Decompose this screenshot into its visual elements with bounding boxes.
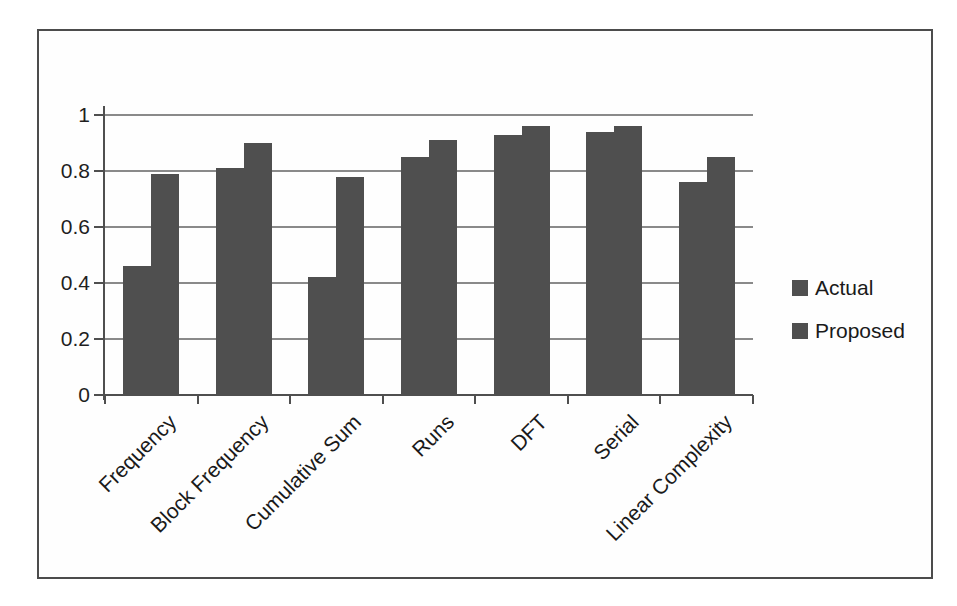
chart-frame: 00.20.40.60.81 FrequencyBlock FrequencyC… <box>37 29 933 579</box>
y-tick-0 <box>94 394 103 396</box>
y-tick-label-0.8: 0.8 <box>30 159 90 183</box>
y-tick-label-0.2: 0.2 <box>30 327 90 351</box>
y-tick-0.2 <box>94 338 103 340</box>
y-tick-1 <box>94 114 103 116</box>
legend-item-actual: Actual <box>792 276 873 300</box>
legend-item-proposed: Proposed <box>792 319 905 343</box>
bar-proposed-runs <box>429 140 457 395</box>
x-tick-1 <box>197 395 199 404</box>
x-category-label-dft: DFT <box>506 410 552 456</box>
bar-proposed-serial <box>614 126 642 395</box>
x-category-label-runs: Runs <box>407 410 459 462</box>
legend-label: Proposed <box>815 319 905 343</box>
y-tick-0.6 <box>94 226 103 228</box>
y-tick-label-0: 0 <box>30 383 90 407</box>
plot-area <box>105 115 753 395</box>
y-tick-0.4 <box>94 282 103 284</box>
legend-marker-icon <box>792 323 808 339</box>
bar-proposed-frequency <box>151 174 179 395</box>
x-tick-5 <box>567 395 569 404</box>
bar-proposed-linear-complexity <box>707 157 735 395</box>
x-category-label-serial: Serial <box>589 410 644 465</box>
bar-actual-linear-complexity <box>679 182 707 395</box>
scanned-chart-page: 00.20.40.60.81 FrequencyBlock FrequencyC… <box>0 0 957 606</box>
bar-actual-block-frequency <box>216 168 244 395</box>
bar-proposed-cumulative-sum <box>336 177 364 395</box>
bar-proposed-dft <box>522 126 550 395</box>
x-tick-6 <box>659 395 661 404</box>
legend-marker-icon <box>792 280 808 296</box>
x-tick-0 <box>104 395 106 404</box>
bar-proposed-block-frequency <box>244 143 272 395</box>
bar-actual-runs <box>401 157 429 395</box>
gridline-1 <box>105 114 753 116</box>
bar-actual-frequency <box>123 266 151 395</box>
bar-actual-cumulative-sum <box>308 277 336 395</box>
x-category-label-frequency: Frequency <box>94 410 181 497</box>
x-tick-2 <box>289 395 291 404</box>
x-axis-line <box>103 394 753 396</box>
y-axis-line <box>103 106 105 400</box>
x-tick-3 <box>382 395 384 404</box>
bar-actual-dft <box>494 135 522 395</box>
bar-actual-serial <box>586 132 614 395</box>
x-tick-4 <box>474 395 476 404</box>
x-tick-7 <box>752 395 754 404</box>
y-tick-label-0.4: 0.4 <box>30 271 90 295</box>
y-tick-label-0.6: 0.6 <box>30 215 90 239</box>
legend-label: Actual <box>815 276 873 300</box>
y-tick-label-1: 1 <box>30 103 90 127</box>
y-tick-0.8 <box>94 170 103 172</box>
